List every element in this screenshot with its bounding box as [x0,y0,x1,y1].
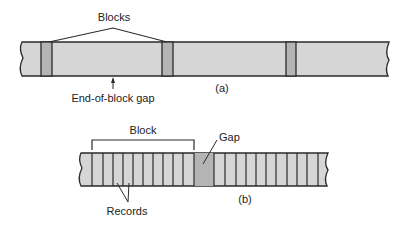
diagram-b: Block Gap Records (b) [79,124,328,217]
gap-arrow-head [111,77,115,83]
gap-a-2 [162,42,173,76]
records-label: Records [107,205,148,217]
block-bracket [92,140,194,150]
end-of-block-gap-label: End-of-block gap [71,92,154,104]
gap-a-1 [41,42,52,76]
blocks-label: Blocks [98,11,131,23]
tape-block-diagram: Blocks End-of-block gap (a) Block Gap Re… [0,0,412,226]
diagram-a: Blocks End-of-block gap (a) [20,11,389,104]
gap-a-3 [286,42,296,76]
block-label: Block [130,124,157,136]
gap-label: Gap [219,131,240,143]
tape-a [20,42,389,76]
caption-a: (a) [215,82,228,94]
blocks-pointer [49,28,167,42]
gap-b [194,153,214,186]
caption-b: (b) [238,193,251,205]
